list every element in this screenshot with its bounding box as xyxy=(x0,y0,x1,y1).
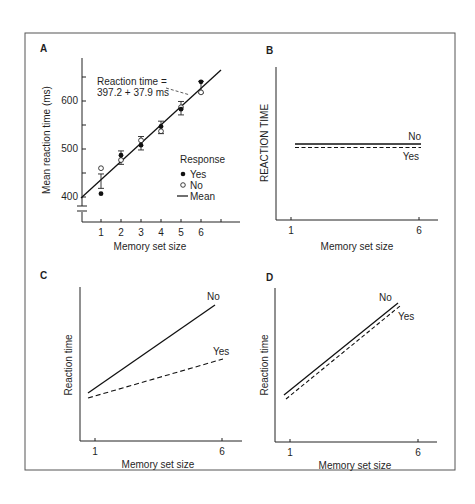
x-tick-label: 6 xyxy=(415,447,421,458)
x-tick-label: 2 xyxy=(118,227,124,238)
x-tick-label: 4 xyxy=(158,227,164,238)
x-tick-label: 6 xyxy=(416,225,422,236)
x-tick-label: 1 xyxy=(98,227,104,238)
open-circle-icon xyxy=(181,183,186,188)
yes-point xyxy=(99,191,104,196)
y-axis-title-b: REACTION TIME xyxy=(259,104,270,182)
panel-label-b: B xyxy=(266,45,273,56)
y-axis-title-c: Reaction time xyxy=(63,334,74,396)
label-yes-b: Yes xyxy=(403,151,419,162)
yes-point xyxy=(179,107,184,112)
no-point xyxy=(99,166,104,171)
fit-annotation-line1: Reaction time = xyxy=(97,76,167,87)
y-axis-title-d: Reaction time xyxy=(259,334,270,396)
annotation-leader xyxy=(166,88,190,95)
legend-label-mean: Mean xyxy=(190,191,215,202)
label-yes-d: Yes xyxy=(398,311,414,322)
x-axis-title-a: Memory set size xyxy=(114,241,187,252)
x-tick-label: 3 xyxy=(138,227,144,238)
yes-point xyxy=(199,79,204,84)
label-no-d: No xyxy=(379,292,392,303)
legend-title: Response xyxy=(180,154,225,165)
x-axis-title-c: Memory set size xyxy=(122,459,195,470)
no-point xyxy=(199,90,204,95)
x-tick-label: 6 xyxy=(219,446,225,457)
x-tick-label: 1 xyxy=(287,447,293,458)
label-no-b: No xyxy=(408,131,421,142)
yes-point xyxy=(139,143,144,148)
line-no-d xyxy=(284,303,398,395)
y-tick-label: 500 xyxy=(61,143,78,154)
y-tick-label: 400 xyxy=(61,191,78,202)
label-no-c: No xyxy=(207,291,220,302)
yes-point xyxy=(159,124,164,129)
filled-circle-icon xyxy=(181,172,186,177)
y-tick-label: 600 xyxy=(61,95,78,106)
y-axis-title-a: Mean reaction time (ms) xyxy=(41,86,52,194)
yes-point xyxy=(119,153,124,158)
panel-d: D 1 6 Memory set size Reaction time No Y… xyxy=(259,272,437,471)
panel-b: B 1 6 Memory set size REACTION TIME No Y… xyxy=(259,45,438,252)
x-tick-label: 1 xyxy=(288,225,294,236)
legend-label-no: No xyxy=(190,180,203,191)
fit-annotation-line2: 397.2 + 37.9 ms xyxy=(97,87,169,98)
x-axis-title-d: Memory set size xyxy=(319,460,392,471)
panel-label-a: A xyxy=(40,43,47,54)
panel-c: C 1 6 Memory set size Reaction time No Y… xyxy=(40,270,242,470)
x-axis-title-b: Memory set size xyxy=(321,241,394,252)
panel-label-d: D xyxy=(266,272,273,283)
x-tick-label: 5 xyxy=(178,227,184,238)
figure: A 600 500 400 1 2 xyxy=(0,0,475,504)
legend-label-yes: Yes xyxy=(190,169,206,180)
x-tick-label: 6 xyxy=(198,227,204,238)
panel-label-c: C xyxy=(40,270,47,281)
no-point xyxy=(119,158,124,163)
panel-a: A 600 500 400 1 2 xyxy=(40,43,240,252)
label-yes-c: Yes xyxy=(213,346,229,357)
no-point xyxy=(159,129,164,134)
y-ticks-a xyxy=(82,77,86,197)
line-yes-d xyxy=(286,306,400,399)
no-point xyxy=(139,138,144,143)
legend-a: Response Yes No Mean xyxy=(177,154,225,202)
x-tick-label: 1 xyxy=(92,446,98,457)
